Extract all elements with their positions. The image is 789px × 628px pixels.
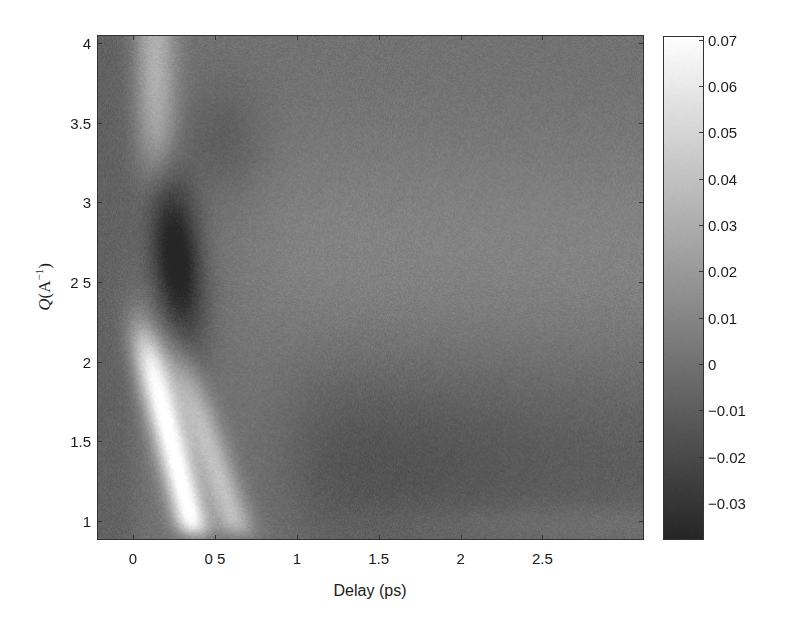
y-tick-mark-right xyxy=(639,282,644,283)
y-tick-label: 3 xyxy=(83,194,91,211)
x-tick-mark xyxy=(542,535,543,540)
y-tick-mark xyxy=(97,282,102,283)
x-tick-label: 0 xyxy=(129,550,137,567)
y-tick-mark xyxy=(97,202,102,203)
colorbar xyxy=(663,36,704,540)
heatmap-image xyxy=(98,36,643,539)
y-tick-mark-right xyxy=(639,362,644,363)
x-tick-mark xyxy=(133,535,134,540)
x-tick-mark-top xyxy=(379,35,380,40)
y-tick-mark-right xyxy=(639,441,644,442)
y-axis-label-close: ) xyxy=(35,263,54,269)
colorbar-tick-mark xyxy=(699,364,704,365)
colorbar-tick-mark xyxy=(699,86,704,87)
x-tick-mark xyxy=(215,535,216,540)
colorbar-gradient xyxy=(664,37,703,539)
y-tick-mark-right xyxy=(639,43,644,44)
colorbar-tick-label: 0.04 xyxy=(708,170,737,187)
colorbar-tick-label: 0.01 xyxy=(708,309,737,326)
colorbar-tick-label: −0.02 xyxy=(708,448,746,465)
x-tick-label: 0 5 xyxy=(204,550,225,567)
heatmap-plot-area xyxy=(97,35,644,540)
colorbar-tick-label: 0.07 xyxy=(708,31,737,48)
y-tick-mark xyxy=(97,521,102,522)
x-tick-mark xyxy=(297,535,298,540)
y-axis-label-unit: (A xyxy=(35,281,54,299)
colorbar-tick-label: 0.03 xyxy=(708,217,737,234)
x-tick-mark-top xyxy=(297,35,298,40)
colorbar-tick-mark xyxy=(699,40,704,41)
y-axis-label: Q(A−1) xyxy=(33,263,55,311)
y-tick-label: 1 xyxy=(83,512,91,529)
x-tick-mark xyxy=(461,535,462,540)
x-tick-mark-top xyxy=(133,35,134,40)
colorbar-tick-label: −0.01 xyxy=(708,402,746,419)
x-tick-label: 2.5 xyxy=(532,550,553,567)
y-tick-mark-right xyxy=(639,521,644,522)
x-tick-label: 1 xyxy=(293,550,301,567)
x-axis-label: Delay (ps) xyxy=(334,582,407,600)
y-tick-mark-right xyxy=(639,123,644,124)
colorbar-tick-label: −0.03 xyxy=(708,494,746,511)
y-tick-label: 2 5 xyxy=(70,273,91,290)
x-tick-mark-top xyxy=(215,35,216,40)
colorbar-tick-mark xyxy=(699,318,704,319)
y-tick-label: 3.5 xyxy=(70,114,91,131)
y-tick-label: 4 xyxy=(83,34,91,51)
y-tick-label: 2 xyxy=(83,353,91,370)
y-tick-mark xyxy=(97,362,102,363)
colorbar-tick-mark xyxy=(699,179,704,180)
colorbar-tick-label: 0.05 xyxy=(708,124,737,141)
x-tick-label: 2 xyxy=(456,550,464,567)
x-tick-mark-top xyxy=(542,35,543,40)
colorbar-tick-label: 0 xyxy=(708,355,716,372)
y-axis-label-var: Q xyxy=(35,299,54,311)
y-tick-mark xyxy=(97,441,102,442)
y-tick-mark xyxy=(97,123,102,124)
colorbar-tick-mark xyxy=(699,271,704,272)
x-tick-mark xyxy=(379,535,380,540)
x-tick-mark-top xyxy=(461,35,462,40)
colorbar-tick-mark xyxy=(699,132,704,133)
colorbar-tick-mark xyxy=(699,225,704,226)
colorbar-tick-mark xyxy=(699,410,704,411)
colorbar-tick-label: 0.06 xyxy=(708,78,737,95)
y-tick-label: 1.5 xyxy=(70,433,91,450)
colorbar-tick-mark xyxy=(699,503,704,504)
y-axis-label-exponent: −1 xyxy=(33,269,45,281)
y-tick-mark-right xyxy=(639,202,644,203)
colorbar-tick-mark xyxy=(699,457,704,458)
y-tick-mark xyxy=(97,43,102,44)
x-tick-label: 1.5 xyxy=(368,550,389,567)
colorbar-tick-label: 0.02 xyxy=(708,263,737,280)
